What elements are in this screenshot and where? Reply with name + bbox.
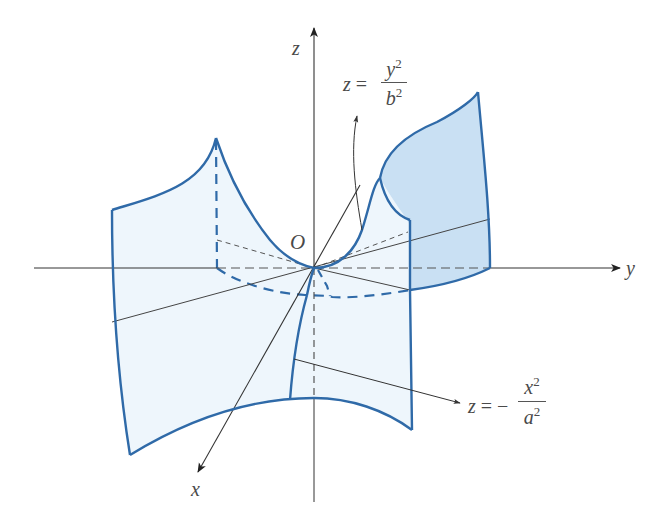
xz-trace-numerator: x2	[518, 374, 546, 399]
saddle-surface-diagram	[0, 0, 661, 531]
yz-fraction-bar	[381, 82, 407, 83]
yz-trace-leader-arrow	[354, 116, 362, 230]
yz-trace-equation-lhs: z =	[343, 73, 367, 96]
z-axis-label: z	[292, 38, 300, 58]
yz-trace-numerator: y2	[381, 56, 407, 81]
xz-trace-equals: =	[481, 395, 492, 417]
yz-trace-lhs: z	[343, 73, 351, 95]
y-axis-label: y	[626, 258, 635, 278]
yz-trace-fraction: y2 b2	[381, 56, 407, 108]
yz-denominator-var: b	[386, 87, 396, 109]
yz-numerator-var: y	[386, 58, 395, 80]
xz-numerator-exp: 2	[533, 374, 540, 389]
x-axis-label: x	[191, 479, 200, 499]
origin-label: O	[290, 232, 305, 253]
xz-trace-sign: −	[497, 395, 508, 417]
xz-denominator-exp: 2	[534, 404, 541, 419]
yz-denominator-exp: 2	[396, 85, 403, 100]
xz-numerator-var: x	[524, 376, 533, 398]
xz-denominator-var: a	[524, 406, 534, 428]
xz-trace-equation-lhs: z = −	[468, 395, 508, 418]
yz-trace-equals: =	[356, 73, 367, 95]
xz-trace-denominator: a2	[518, 404, 546, 429]
xz-trace-fraction: x2 a2	[518, 374, 546, 428]
yz-trace-denominator: b2	[381, 85, 407, 110]
yz-numerator-exp: 2	[395, 56, 402, 71]
xz-trace-lhs: z	[468, 395, 476, 417]
xz-fraction-bar	[518, 401, 546, 402]
